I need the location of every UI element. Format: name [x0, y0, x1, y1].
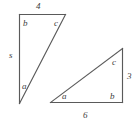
geometry-diagram: 4 s b c a 6 3 c b a	[0, 0, 138, 126]
triangle-right-bottom-length-label: 6	[83, 110, 88, 120]
triangle-left-angle-c-label: c	[54, 18, 58, 28]
triangle-right-angle-a-label: a	[62, 91, 67, 101]
triangle-right-vertical-length-label: 3	[126, 71, 132, 81]
triangle-left-top-length-label: 4	[36, 1, 41, 11]
triangle-left-angle-a-label: a	[22, 81, 27, 91]
triangle-left-vertical-length-label: s	[9, 50, 13, 60]
triangle-right-angle-b-label: b	[110, 91, 115, 101]
triangle-left-angle-b-label: b	[23, 18, 28, 28]
triangles-figure: 4 s b c a 6 3 c b a	[0, 0, 138, 126]
triangle-right-angle-c-label: c	[112, 57, 116, 67]
